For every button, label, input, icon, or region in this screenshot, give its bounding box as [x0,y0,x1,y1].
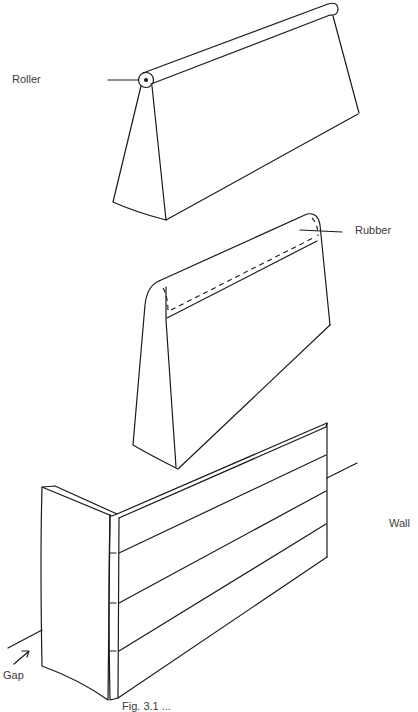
gap-label: Gap [3,669,24,681]
roller-axle-icon [144,78,148,82]
figure-caption: Fig. 3.1 ... [122,700,171,712]
gap-arrow-icon [14,652,28,664]
roller-wedge-drawing [108,3,359,220]
roller-label: Roller [12,73,41,85]
rubber-label: Rubber [355,224,391,236]
wall-label: Wall [389,517,410,529]
